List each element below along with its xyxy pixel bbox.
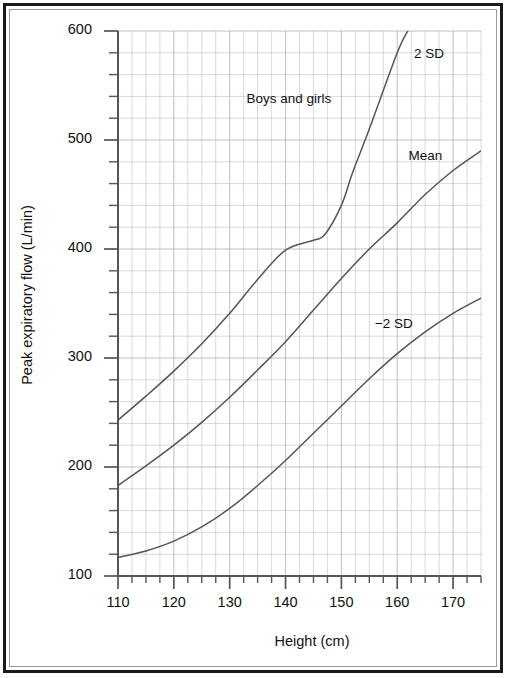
y-tick-label-400: 400 xyxy=(44,239,92,255)
annotation--2-sd: −2 SD xyxy=(375,316,413,331)
annotation-boys-and-girls: Boys and girls xyxy=(246,91,331,106)
x-tick-label-120: 120 xyxy=(151,594,197,610)
x-axis-title: Height (cm) xyxy=(142,633,482,649)
y-axis-title-text: Peak expiratory flow (L/min) xyxy=(15,170,39,420)
x-tick-label-170: 170 xyxy=(430,594,476,610)
plot-area: 100200300400500600 110120130140150160170… xyxy=(0,0,508,678)
curve-2-sd xyxy=(118,30,408,420)
y-tick-label-500: 500 xyxy=(44,130,92,146)
x-tick-label-110: 110 xyxy=(95,594,141,610)
y-tick-label-100: 100 xyxy=(44,566,92,582)
axis-ticks xyxy=(104,31,481,589)
annotation-mean: Mean xyxy=(408,148,442,163)
y-tick-label-600: 600 xyxy=(44,21,92,37)
y-tick-label-300: 300 xyxy=(44,348,92,364)
x-tick-label-150: 150 xyxy=(318,594,364,610)
grid-minor xyxy=(118,31,481,576)
x-tick-label-160: 160 xyxy=(374,594,420,610)
y-axis-title: Peak expiratory flow (L/min) xyxy=(15,170,39,420)
y-tick-label-200: 200 xyxy=(44,457,92,473)
x-tick-label-140: 140 xyxy=(263,594,309,610)
annotation-2-sd: 2 SD xyxy=(414,46,444,61)
x-tick-label-130: 130 xyxy=(207,594,253,610)
figure-container: 100200300400500600 110120130140150160170… xyxy=(0,0,508,678)
